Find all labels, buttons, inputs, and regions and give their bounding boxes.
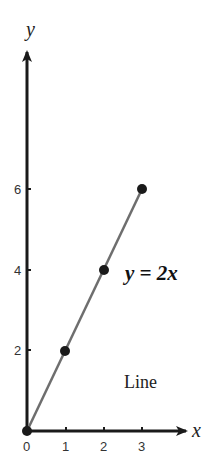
x-tick-label-1: 1 <box>62 439 69 454</box>
y-axis-label: y <box>24 18 35 41</box>
data-point-3-6 <box>137 184 147 194</box>
y-tick-label-4: 4 <box>14 263 21 278</box>
line-chart: 2 4 6 0 1 2 3 y x y = 2x Line <box>0 0 221 474</box>
data-point-2-4 <box>99 265 109 275</box>
caption-label: Line <box>124 372 157 392</box>
x-axis-label: x <box>191 419 201 441</box>
data-line <box>27 189 142 431</box>
equation-label: y = 2x <box>122 261 178 285</box>
data-point-1-2 <box>60 346 70 356</box>
x-tick-label-2: 2 <box>100 439 107 454</box>
x-tick-label-3: 3 <box>138 439 145 454</box>
chart-svg: 2 4 6 0 1 2 3 y x y = 2x Line <box>0 0 221 474</box>
y-tick-label-6: 6 <box>14 182 21 197</box>
data-point-0-0 <box>22 426 32 436</box>
y-tick-label-2: 2 <box>14 343 21 358</box>
x-tick-label-0: 0 <box>23 439 30 454</box>
